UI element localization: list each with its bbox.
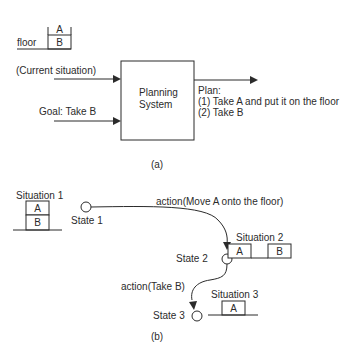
situation-1-block-b-label: B — [34, 217, 41, 228]
situation-2-label: Situation 2 — [236, 232, 284, 243]
current-situation-label: (Current situation) — [16, 65, 96, 76]
situation-3-block-a-label: A — [230, 303, 237, 314]
state-3-label: State 3 — [153, 310, 185, 321]
arrow-head-icon — [189, 301, 197, 310]
action-1-label: action(Move A onto the floor) — [156, 196, 283, 207]
plan-title: Plan: — [198, 85, 221, 96]
block-a-label: A — [56, 24, 63, 35]
state-1-node — [81, 202, 91, 212]
arrow-head-icon — [113, 117, 121, 125]
situation-3-label: Situation 3 — [211, 289, 259, 300]
caption-a: (a) — [151, 159, 163, 170]
plan-step-1: (1) Take A and put it on the floor — [198, 96, 340, 107]
planning-system-line1: Planning — [139, 87, 178, 98]
plan-step-2: (2) Take B — [198, 107, 244, 118]
situation-2-block-a-label: A — [236, 246, 243, 257]
situation-1-block-a-label: A — [34, 203, 41, 214]
state-2-label: State 2 — [176, 253, 208, 264]
arrow-head-icon — [113, 75, 121, 83]
part-b: Situation 1 A B State 1 action(Move A on… — [13, 190, 291, 342]
arrow-head-icon — [250, 76, 258, 84]
action-2-label: action(Take B) — [121, 281, 185, 292]
initial-blocks: A B floor — [17, 24, 71, 49]
caption-b: (b) — [151, 331, 163, 342]
planning-system-line2: System — [139, 99, 172, 110]
goal-label: Goal: Take B — [39, 106, 96, 117]
state-3-node — [192, 311, 202, 321]
situation-1-label: Situation 1 — [16, 190, 64, 201]
planning-diagram: A B floor (Current situation) Goal: Take… — [0, 0, 354, 352]
state-1-label: State 1 — [71, 215, 103, 226]
part-a: A B floor (Current situation) Goal: Take… — [16, 24, 340, 170]
situation-2-block-b-label: B — [276, 246, 283, 257]
block-b-label: B — [56, 37, 63, 48]
floor-label: floor — [17, 37, 37, 48]
action-1-edge — [91, 207, 227, 245]
